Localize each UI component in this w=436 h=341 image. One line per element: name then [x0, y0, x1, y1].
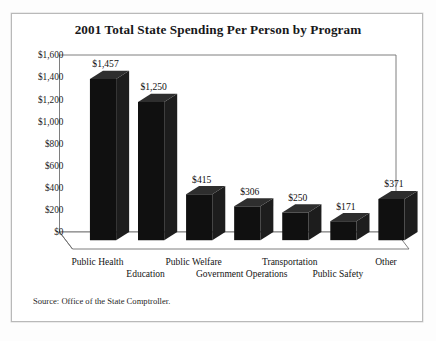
x-axis-category-label: Public Welfare [166, 257, 222, 267]
chart-figure: 2001 Total State Spending Per Person by … [0, 0, 436, 341]
bar-side-face [405, 191, 418, 240]
y-axis-tick-label: $1,000 [38, 117, 64, 127]
bar-side-face [164, 94, 177, 240]
bar-value-label: $171 [336, 201, 355, 212]
y-axis-tick-label: $200 [45, 205, 64, 215]
bar-value-label: $371 [384, 178, 403, 189]
y-axis-tick-label: $1,600 [38, 50, 64, 60]
bar-front-face [378, 199, 404, 240]
bar-front-face [330, 221, 356, 240]
bar-value-label: $1,250 [140, 81, 167, 92]
bar-front-face [186, 194, 212, 240]
y-axis-tick-label: $400 [45, 183, 64, 193]
bar-chart-plot: $1,600$1,400$1,200$1,000$800$600$400$200… [0, 0, 436, 341]
bar-column [186, 186, 225, 240]
bar-column [282, 204, 321, 240]
x-axis-category-label: Government Operations [196, 269, 288, 279]
y-axis-tick-label: $1,400 [38, 72, 64, 82]
x-axis-category-label: Public Health [72, 257, 124, 267]
bar-front-face [90, 79, 116, 240]
bar-column [90, 71, 129, 240]
bar-value-label: $306 [240, 186, 259, 197]
x-axis-category-label: Transportation [262, 257, 318, 267]
bar-front-face [282, 213, 308, 241]
x-axis-category-label: Public Safety [312, 269, 363, 279]
bar-column [234, 198, 273, 240]
bar-front-face [234, 206, 260, 240]
y-axis-tick-label: $1,200 [38, 95, 64, 105]
x-axis-category-label: Education [126, 269, 165, 279]
bar-column [378, 191, 417, 240]
x-axis-category-label: Other [375, 257, 397, 267]
source-note: Source: Office of the State Comptroller. [33, 296, 170, 306]
bar-side-face [116, 71, 129, 240]
y-axis-tick-label: $600 [45, 161, 64, 171]
bar-front-face [138, 102, 164, 240]
bar-value-label: $250 [288, 192, 307, 203]
y-axis-tick-label: $800 [45, 139, 64, 149]
bar-column [138, 94, 177, 240]
bar-value-label: $415 [192, 174, 211, 185]
bar-side-face [212, 186, 225, 240]
bar-value-label: $1,457 [92, 58, 119, 69]
y-axis-tick-label: $0 [54, 227, 64, 237]
